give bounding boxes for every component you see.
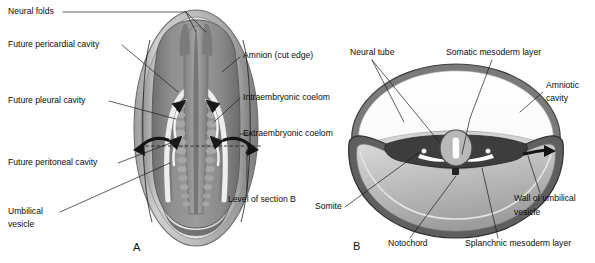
embryology-figure: Neural folds Future pericardial cavity F… [0,0,595,263]
label-umbilical-vesicle-line-2: vesicle [8,219,34,229]
somite-right-b [485,148,490,153]
label-amniotic-cavity-line-2: cavity [546,93,569,103]
label-future-peritoneal-cavity: Future peritoneal cavity [8,157,98,167]
label-amnion-cut-edge: Amnion (cut edge) [243,50,313,60]
label-amniotic-cavity-line-1: Amniotic [546,80,580,90]
label-somatic-mesoderm-layer: Somatic mesoderm layer [446,47,541,57]
label-notochord: Notochord [388,238,428,248]
label-wall-of-umbilical-line-2: vesicle [514,207,540,217]
label-future-pericardial-cavity: Future pericardial cavity [8,39,100,49]
label-somite: Somite [315,201,342,211]
label-neural-folds: Neural folds [8,6,54,16]
label-umbilical-vesicle-line-1: Umbilical [8,206,43,216]
label-splanchnic-mesoderm-layer: Splanchnic mesoderm layer [465,238,571,248]
neural-canal-b [452,137,459,159]
figure-canvas: Neural folds Future pericardial cavity F… [0,0,595,263]
neural-groove-midline [193,28,198,214]
label-neural-tube: Neural tube [350,47,395,57]
label-level-of-section-b: Level of section B [228,194,296,204]
somite-left-b [421,148,426,153]
label-wall-of-umbilical-line-1: Wall of umbilical [514,193,576,203]
panel-letter-a: A [133,241,141,253]
label-extraembryonic-coelom: Extraembryonic coelom [243,128,333,138]
label-future-pleural-cavity: Future pleural cavity [8,95,86,105]
notochord-b [452,168,459,175]
label-intraembryonic-coelom: Intraembryonic coelom [243,92,330,102]
panel-letter-b: B [353,240,360,252]
